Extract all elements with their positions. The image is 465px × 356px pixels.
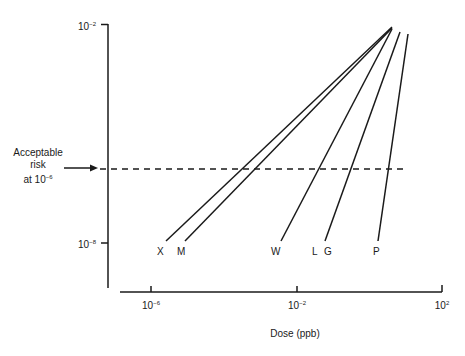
series-label-w: W (271, 246, 280, 257)
series-label-x: X (157, 246, 164, 257)
x-tick-label-3: 102 (422, 298, 462, 311)
series-label-g: G (324, 246, 332, 257)
annotation-line-3: at 10−6 (8, 171, 68, 186)
x-tick-label-2: 10−2 (277, 298, 317, 311)
annotation-line-2: risk (8, 159, 68, 171)
annotation-line-1: Acceptable (8, 147, 68, 159)
x-tick-label-1: 10−6 (131, 298, 171, 311)
chart-canvas (0, 0, 465, 356)
series-label-l: L (312, 246, 318, 257)
y-tick-label-bottom: 10−8 (56, 237, 96, 250)
y-tick-label-top: 10−2 (56, 19, 96, 32)
series-line-p (378, 34, 408, 241)
series-line-x (166, 27, 392, 241)
series-label-p: P (373, 246, 380, 257)
series-line-m (185, 28, 392, 241)
acceptable-risk-annotation: Acceptable risk at 10−6 (8, 147, 68, 186)
x-axis-title: Dose (ppb) (250, 328, 340, 339)
arrow-head-icon (90, 165, 98, 172)
series-label-m: M (177, 246, 185, 257)
